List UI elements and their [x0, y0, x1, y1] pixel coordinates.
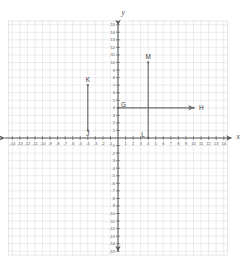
point-L — [147, 137, 149, 139]
svg-text:13: 13 — [214, 141, 219, 146]
point-labels: KJGHML — [86, 53, 204, 138]
point-H — [192, 107, 194, 109]
y-axis-name: y — [120, 8, 125, 17]
label-J: J — [86, 130, 89, 137]
coordinate-plane-figure: -14-13-12-11-10-9-8-7-6-5-4-3-2-11234567… — [0, 0, 248, 265]
point-K — [87, 84, 89, 86]
svg-text:11: 11 — [111, 52, 116, 57]
svg-text:-12: -12 — [24, 141, 31, 146]
label-H: H — [199, 104, 204, 111]
label-M: M — [146, 53, 151, 60]
svg-text:12: 12 — [206, 141, 211, 146]
svg-text:13: 13 — [110, 37, 115, 42]
svg-text:15: 15 — [110, 22, 115, 27]
svg-text:-13: -13 — [109, 234, 116, 239]
label-G: G — [121, 101, 126, 108]
svg-text:-14: -14 — [109, 241, 116, 246]
label-K: K — [86, 76, 91, 83]
coordinate-plane-svg: -14-13-12-11-10-9-8-7-6-5-4-3-2-11234567… — [0, 0, 248, 265]
axis-lines — [5, 25, 232, 251]
svg-text:-13: -13 — [17, 141, 24, 146]
label-L: L — [141, 131, 145, 138]
svg-text:-10: -10 — [40, 141, 47, 146]
x-axis-name: x — [235, 132, 240, 141]
svg-text:10: 10 — [110, 60, 115, 65]
svg-text:10: 10 — [191, 141, 196, 146]
svg-text:12: 12 — [110, 45, 115, 50]
svg-text:14: 14 — [110, 30, 115, 35]
svg-text:-11: -11 — [109, 219, 115, 224]
svg-text:14: 14 — [221, 141, 226, 146]
svg-text:11: 11 — [199, 141, 204, 146]
svg-text:-11: -11 — [32, 141, 38, 146]
point-G — [117, 107, 119, 109]
svg-text:-14: -14 — [9, 141, 16, 146]
point-M — [147, 61, 149, 63]
svg-text:-12: -12 — [109, 226, 116, 231]
svg-text:-10: -10 — [109, 211, 116, 216]
svg-text:-15: -15 — [109, 249, 116, 254]
